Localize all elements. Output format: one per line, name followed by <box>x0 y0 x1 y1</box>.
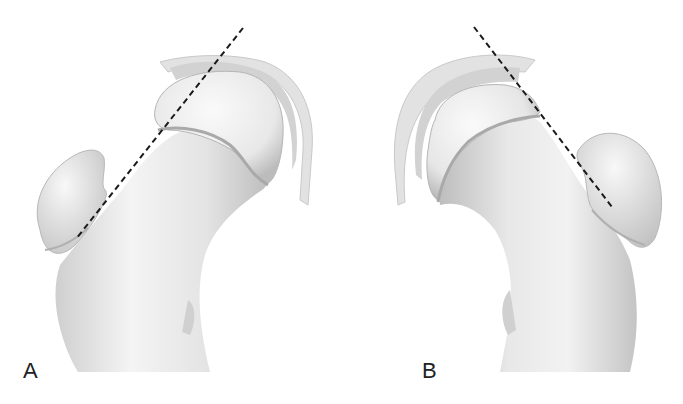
femur-a-drawing <box>0 0 340 404</box>
panel-a: A <box>0 0 340 404</box>
femur-illustration-figure: A <box>0 0 683 404</box>
panel-label-b: B <box>422 360 437 382</box>
panel-label-a: A <box>23 360 38 382</box>
femur-b-drawing <box>340 0 683 404</box>
panel-b: B <box>340 0 683 404</box>
